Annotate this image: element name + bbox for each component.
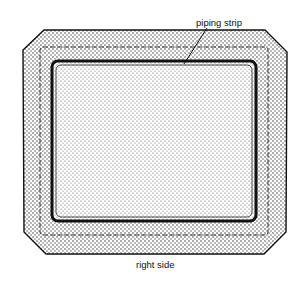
cushion-diagram: piping strip right side (0, 0, 300, 281)
right-side-label: right side (136, 259, 175, 270)
piping-strip-label: piping strip (196, 17, 242, 28)
inner-panel (53, 62, 255, 220)
